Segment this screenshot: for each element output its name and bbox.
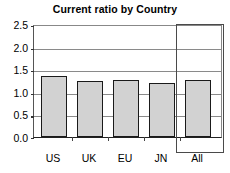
bar-eu[interactable] [113,80,139,137]
chart-container: Current ratio by Country 2.5 2.0 1.5 1.0… [0,0,230,173]
bar-uk[interactable] [77,81,103,137]
y-tick-mark-2.0 [31,49,35,50]
x-tick-label-jn: JN [148,152,174,164]
y-tick-label-0.5: 0.5 [13,110,28,120]
y-tick-mark-0.0 [31,138,35,139]
y-tick-mark-1.0 [31,94,35,95]
y-tick-mark-2.5 [31,26,35,27]
y-tick-label-2.5: 2.5 [13,20,28,30]
gridline-2.0 [34,49,221,50]
bar-all[interactable] [185,80,211,137]
x-tick-label-us: US [40,152,66,164]
chart-title: Current ratio by Country [0,3,230,15]
x-axis: US UK EU JN All [33,140,222,160]
y-tick-label-1.0: 1.0 [13,88,28,98]
y-tick-mark-0.5 [31,116,35,117]
y-tick-mark-1.5 [31,71,35,72]
x-tick-label-uk: UK [76,152,102,164]
bar-jn[interactable] [149,83,175,137]
plot-area [33,25,222,138]
bar-us[interactable] [41,76,67,137]
y-axis: 2.5 2.0 1.5 1.0 0.5 0.0 [0,0,31,173]
y-tick-label-2.0: 2.0 [13,43,28,53]
y-tick-label-0.0: 0.0 [13,133,28,143]
x-tick-label-all: All [184,152,210,164]
y-tick-label-1.5: 1.5 [13,65,28,75]
gridline-1.5 [34,71,221,72]
x-tick-label-eu: EU [112,152,138,164]
